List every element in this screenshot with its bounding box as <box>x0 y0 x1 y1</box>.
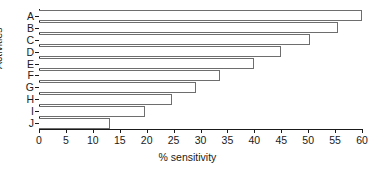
bar-row: A <box>39 10 362 22</box>
x-axis-tick-label: 15 <box>114 135 126 146</box>
x-axis-tick-label: 45 <box>275 135 287 146</box>
bar-row: H <box>39 93 362 105</box>
x-axis-tick-label: 35 <box>222 135 234 146</box>
x-axis-tick-label: 5 <box>63 135 69 146</box>
x-axis-tick <box>281 129 282 133</box>
y-axis-title: Activities <box>0 28 4 69</box>
bar-d <box>39 46 281 57</box>
bar-b <box>39 22 338 33</box>
x-axis-tick-label: 20 <box>141 135 153 146</box>
bar-f <box>39 70 220 81</box>
bar-row: G <box>39 81 362 93</box>
y-axis-tick-label: G <box>26 82 34 93</box>
bar-a <box>39 10 362 21</box>
x-axis-tick-label: 55 <box>329 135 341 146</box>
y-axis-tick-label: B <box>27 23 34 34</box>
bar-g <box>39 82 196 93</box>
sensitivity-bar-chart: Activities ABCDEFGHIJ 051015202530354045… <box>0 0 375 169</box>
x-axis-title: % sensitivity <box>0 152 375 163</box>
x-axis-tick-label: 10 <box>87 135 99 146</box>
bar-h <box>39 94 172 105</box>
x-axis-tick <box>308 129 309 133</box>
x-axis-tick-label: 40 <box>248 135 260 146</box>
bar-j <box>39 118 110 129</box>
y-axis-tick-label: J <box>29 118 34 129</box>
bar-row: J <box>39 117 362 129</box>
x-axis-tick <box>39 129 40 133</box>
bar-i <box>39 106 145 117</box>
bar-row: E <box>39 58 362 70</box>
bar-c <box>39 34 310 45</box>
bar-e <box>39 58 254 69</box>
x-axis-tick <box>174 129 175 133</box>
x-axis-tick-label: 30 <box>195 135 207 146</box>
x-axis-tick <box>66 129 67 133</box>
plot-area: ABCDEFGHIJ <box>39 10 362 129</box>
x-axis-tick-label: 25 <box>168 135 180 146</box>
x-axis-tick <box>93 129 94 133</box>
y-axis-tick-label: H <box>26 94 34 105</box>
y-axis-tick-label: E <box>27 58 34 69</box>
y-axis-tick-label: F <box>28 70 34 81</box>
x-axis-tick <box>201 129 202 133</box>
x-axis-tick <box>335 129 336 133</box>
x-axis-tick-label: 0 <box>36 135 42 146</box>
x-axis-tick <box>227 129 228 133</box>
x-axis-tick <box>147 129 148 133</box>
bar-row: F <box>39 70 362 82</box>
bar-row: B <box>39 22 362 34</box>
x-axis-tick-label: 50 <box>302 135 314 146</box>
bar-row: I <box>39 105 362 117</box>
x-axis-tick-label: 60 <box>356 135 368 146</box>
bar-row: C <box>39 34 362 46</box>
y-axis-tick-label: C <box>26 34 34 45</box>
bar-row: D <box>39 46 362 58</box>
x-axis-tick <box>362 129 363 133</box>
x-axis-tick <box>254 129 255 133</box>
y-axis-tick-label: D <box>26 46 34 57</box>
x-axis-tick <box>120 129 121 133</box>
y-axis-tick-label: I <box>31 106 34 117</box>
y-axis-tick-label: A <box>27 11 34 22</box>
